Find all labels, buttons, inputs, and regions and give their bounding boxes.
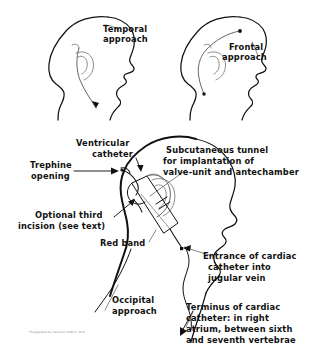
optional-third-label-line1: Optional third <box>35 210 103 220</box>
figure-footnote: *Suggested by Salomon Hakim, M.D. <box>29 330 86 334</box>
ventricular-catheter-label-line2: catheter <box>92 149 134 159</box>
terminus-label-line2: catheter: in right <box>186 313 269 323</box>
terminus-label-line3: atrium, between sixth <box>186 324 293 334</box>
terminus-label-line4: and seventh vertebrae <box>186 335 296 345</box>
subcutaneous-label-line3: valve-unit and antechamber <box>163 167 300 177</box>
terminus-label-line1: Terminus of cardiac <box>186 302 280 312</box>
frontal-label-line2: approach <box>222 52 267 62</box>
frontal-burr-hole-marker <box>238 29 242 33</box>
red-band-label: Red band <box>100 238 145 248</box>
shunt-placement-figure: Temporal approach Frontal approach <box>0 0 323 361</box>
ventricular-catheter-label-line1: Ventricular <box>76 138 130 148</box>
entrance-label-line2: catheter into <box>208 262 271 272</box>
occipital-label-line2: approach <box>112 306 157 316</box>
subcutaneous-label-line1: Subcutaneous tunnel <box>166 145 268 155</box>
entrance-label-line3: jugular vein <box>207 273 266 283</box>
frontal-label-line1: Frontal <box>229 42 263 52</box>
frontal-catheter-distal-marker <box>202 92 205 95</box>
temporal-label-line1: Temporal <box>103 24 147 34</box>
subcutaneous-label-line2: for implantation of <box>163 156 254 166</box>
optional-third-label-line2: incision (see text) <box>18 221 105 231</box>
temporal-label-line2: approach <box>103 34 148 44</box>
trephine-label-line1: Trephine <box>30 160 72 170</box>
occipital-label-line1: Occipital <box>112 295 154 305</box>
trephine-label-line2: opening <box>31 171 70 181</box>
entrance-label-line1: Entrance of cardiac <box>203 251 297 261</box>
jugular-entrance-marker <box>180 247 183 250</box>
